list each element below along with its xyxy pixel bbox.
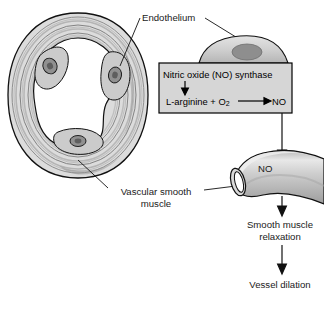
label-no-on-vessel: NO — [258, 163, 272, 175]
vessel-cross-section — [8, 13, 148, 178]
endothelial-nucleus — [232, 44, 262, 60]
reaction-substrate-label: L-arginine + O2 — [166, 96, 230, 107]
diagram-artwork — [0, 0, 324, 313]
reaction-enzyme-label: Nitric oxide (NO) synthase — [163, 69, 272, 80]
endothelial-cell-cross-2 — [101, 52, 130, 100]
reaction-substrate-subscript: 2 — [226, 100, 230, 107]
reaction-substrate-text: L-arginine + O — [166, 96, 226, 107]
label-endothelium: Endothelium — [142, 12, 195, 24]
leader-vascular-right — [204, 186, 236, 190]
label-smooth-muscle-relaxation: Smooth muscle relaxation — [238, 219, 322, 242]
reaction-product-label: NO — [272, 96, 286, 107]
endothelial-cell-cross-3 — [54, 129, 104, 155]
endothelial-cell-illustration — [199, 36, 288, 63]
label-vascular-smooth-muscle: Vascular smooth muscle — [110, 186, 202, 209]
blood-vessel-tube — [228, 151, 324, 204]
nitric-oxide-vasodilation-figure: Endothelium Vascular smooth muscle NO Sm… — [0, 0, 324, 313]
label-vessel-dilation: Vessel dilation — [244, 279, 316, 291]
